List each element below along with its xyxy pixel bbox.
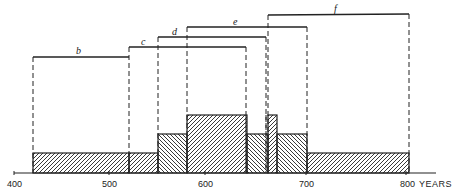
histogram-segment — [247, 134, 268, 173]
histogram-segment — [158, 134, 187, 173]
x-tick-400: 400 — [7, 179, 22, 189]
histogram-segment — [307, 153, 409, 173]
histogram — [33, 115, 409, 173]
histogram-segment — [268, 115, 277, 173]
period-label-b: b — [76, 45, 81, 56]
histogram-segment — [129, 153, 158, 173]
histogram-segment — [187, 115, 247, 173]
period-label-d: d — [172, 26, 178, 37]
period-label-f: f — [334, 3, 338, 14]
diagram-canvas: b c d e f 400 500 600 700 800 YEARS — [0, 0, 454, 192]
x-tick-500: 500 — [102, 179, 117, 189]
histogram-segment — [277, 134, 307, 173]
x-axis-unit-label: YEARS — [419, 179, 452, 189]
histogram-segment — [33, 153, 129, 173]
period-label-c: c — [141, 36, 146, 47]
period-label-e: e — [233, 16, 238, 27]
x-tick-800: 800 — [400, 179, 415, 189]
x-tick-700: 700 — [299, 179, 314, 189]
x-tick-600: 600 — [198, 179, 213, 189]
